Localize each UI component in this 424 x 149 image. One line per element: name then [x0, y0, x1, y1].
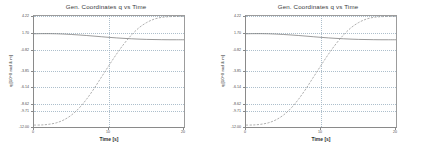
- x-tick-label: 0: [32, 130, 34, 134]
- x-tick-mark: [245, 128, 246, 130]
- y-tick-label: -8.62: [21, 102, 29, 106]
- y-tick-label: -12.00: [19, 125, 29, 129]
- x-tick-label: 0: [244, 130, 246, 134]
- y-tick-label: -9.71: [233, 109, 241, 113]
- chart-title: Gen. Coordinates q vs Time: [0, 3, 212, 10]
- y-tick-label: 4.22: [22, 14, 29, 18]
- series-line: [34, 16, 184, 125]
- chart-panel-right: Gen. Coordinates q vs Time q [10^0 rad &…: [212, 0, 424, 149]
- y-tick-label: 1.70: [22, 31, 29, 35]
- x-tick-label: 20: [181, 130, 185, 134]
- series-line: [34, 34, 184, 40]
- plot-area: [33, 15, 185, 128]
- series-layer: [34, 16, 184, 127]
- figure-canvas: Gen. Coordinates q vs Time q [10^0 rad &…: [0, 0, 424, 149]
- x-tick-label: 10: [106, 130, 110, 134]
- y-tick-label: -9.71: [21, 109, 29, 113]
- x-axis-title: Time [s]: [245, 136, 397, 142]
- chart-title: Gen. Coordinates q vs Time: [212, 3, 424, 10]
- y-tick-labels: 4.221.70-0.82-3.85-6.14-8.62-9.71-12.00: [212, 15, 245, 128]
- y-tick-label: 1.70: [234, 31, 241, 35]
- y-tick-label: -3.85: [233, 69, 241, 73]
- y-tick-label: -12.00: [231, 125, 241, 129]
- series-layer: [246, 16, 396, 127]
- y-tick-label: 4.22: [234, 14, 241, 18]
- y-tick-label: -6.14: [21, 85, 29, 89]
- y-tick-label: -0.82: [21, 48, 29, 52]
- x-axis-title: Time [s]: [33, 136, 185, 142]
- chart-panel-left: Gen. Coordinates q vs Time q [10^0 rad &…: [0, 0, 212, 149]
- x-tick-mark: [108, 128, 109, 130]
- x-tick-label: 10: [318, 130, 322, 134]
- series-line: [246, 34, 396, 40]
- x-tick-mark: [33, 128, 34, 130]
- x-tick-mark: [183, 128, 184, 130]
- x-tick-mark: [395, 128, 396, 130]
- plot-area: [245, 15, 397, 128]
- y-tick-label: -8.62: [233, 102, 241, 106]
- y-tick-label: -3.85: [21, 69, 29, 73]
- y-tick-label: -0.82: [233, 48, 241, 52]
- x-tick-label: 20: [393, 130, 397, 134]
- y-tick-label: -6.14: [233, 85, 241, 89]
- x-tick-mark: [320, 128, 321, 130]
- series-line: [246, 16, 396, 125]
- y-tick-labels: 4.221.70-0.82-3.85-6.14-8.62-9.71-12.00: [0, 15, 33, 128]
